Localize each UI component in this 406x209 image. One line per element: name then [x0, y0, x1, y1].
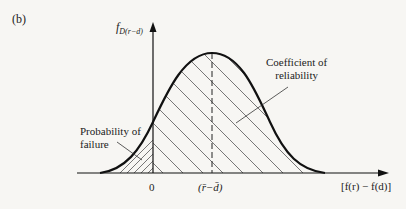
y-axis-label: fD(r−d) [116, 20, 143, 36]
x-axis-label: [f(r) − f(d)] [341, 180, 391, 192]
tick-zero: 0 [149, 181, 155, 193]
reliability-diagram: (b) fD(r−d) Coefficient of reliability P… [0, 0, 406, 209]
panel-label: (b) [12, 12, 26, 27]
probability-of-failure-label: Probability of failure [80, 125, 141, 151]
coefficient-leader [236, 87, 288, 123]
distribution-plot [0, 0, 406, 209]
y-axis-arrow-icon [150, 22, 157, 32]
tick-mean: (r̄−d̄) [198, 181, 223, 193]
coefficient-of-reliability-label: Coefficient of reliability [266, 56, 327, 82]
x-axis-arrow-icon [378, 170, 389, 177]
